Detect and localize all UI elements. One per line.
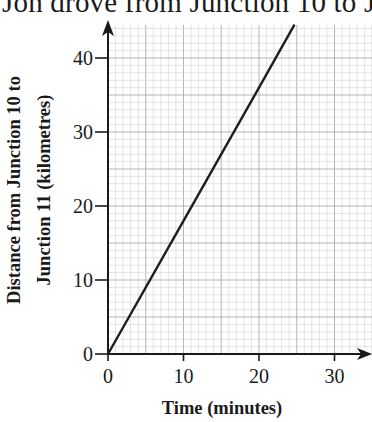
y-tick-label: 40 [73, 47, 93, 70]
y-tick-label: 10 [73, 269, 93, 292]
y-axis-label-line-1: Distance from Junction 10 to [0, 76, 29, 304]
y-axis-label-line-2: Junction 11 (kilometres) [29, 76, 59, 304]
x-tick-label: 10 [174, 365, 194, 388]
x-tick-label: 30 [325, 365, 345, 388]
y-tick-label: 20 [73, 195, 93, 218]
y-axis-label: Distance from Junction 10 to Junction 11… [0, 76, 59, 304]
x-tick-label: 20 [249, 365, 269, 388]
x-tick-label: 0 [103, 365, 113, 388]
x-axis-label: Time (minutes) [162, 398, 282, 419]
y-tick-label: 30 [73, 121, 93, 144]
grid [108, 25, 372, 354]
y-tick-label: 0 [83, 343, 93, 366]
